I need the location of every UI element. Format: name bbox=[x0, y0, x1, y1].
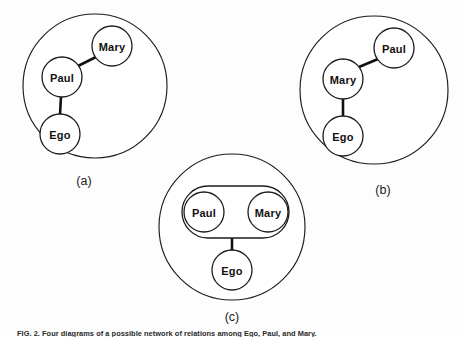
panel-c-node-paul-label: Paul bbox=[192, 207, 216, 219]
network-diagram-figure: Mary Paul Ego (a) Paul Mary bbox=[0, 0, 463, 337]
panel-a-node-paul: Paul bbox=[42, 57, 82, 97]
panel-c-node-mary: Mary bbox=[248, 192, 288, 232]
panel-b-node-paul-label: Paul bbox=[382, 43, 406, 55]
panel-b-node-ego: Ego bbox=[323, 116, 363, 156]
figure-container: Mary Paul Ego (a) Paul Mary bbox=[0, 0, 463, 337]
panel-b-node-paul: Paul bbox=[374, 28, 414, 68]
panel-c-node-ego-label: Ego bbox=[221, 265, 242, 277]
panel-b-label: (b) bbox=[375, 183, 390, 197]
panel-b-node-mary-label: Mary bbox=[330, 74, 357, 86]
panel-a-edge-paul-ego bbox=[60, 96, 61, 115]
panel-a-node-ego: Ego bbox=[40, 114, 80, 154]
panel-a-node-paul-label: Paul bbox=[50, 72, 74, 84]
panel-c-node-paul: Paul bbox=[184, 192, 224, 232]
panel-a: Mary Paul Ego (a) bbox=[23, 14, 167, 188]
panel-b: Paul Mary Ego (b) bbox=[300, 16, 448, 197]
panel-a-node-ego-label: Ego bbox=[49, 129, 70, 141]
figure-caption: FIG. 2. Four diagrams of a possible netw… bbox=[17, 329, 317, 337]
panel-a-node-mary: Mary bbox=[92, 26, 132, 66]
panel-a-node-mary-label: Mary bbox=[99, 41, 126, 53]
panel-c-node-ego: Ego bbox=[212, 250, 252, 290]
panel-b-node-ego-label: Ego bbox=[332, 131, 353, 143]
panel-b-node-mary: Mary bbox=[323, 59, 363, 99]
panel-c-label: (c) bbox=[225, 310, 240, 324]
panel-a-label: (a) bbox=[76, 174, 91, 188]
panel-b-boundary-circle bbox=[300, 16, 448, 164]
panel-c: Paul Mary Ego (c) bbox=[159, 154, 305, 324]
panel-c-node-mary-label: Mary bbox=[255, 207, 282, 219]
